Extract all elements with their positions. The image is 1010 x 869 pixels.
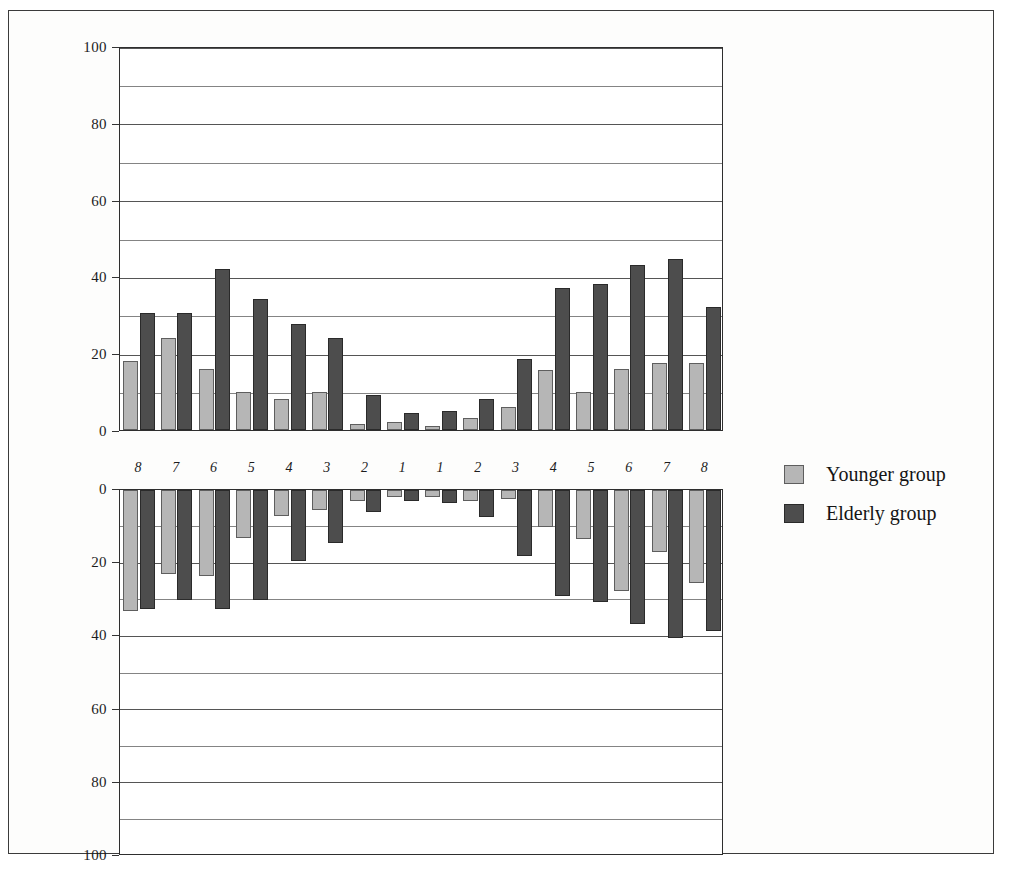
legend-label-elderly: Elderly group (826, 502, 937, 525)
x-axis-category-labels: 8765432112345678 (119, 459, 723, 481)
bar-elderly-2 (366, 395, 381, 430)
bar-elderly-5 (593, 490, 608, 602)
bar-elderly-7 (668, 490, 683, 638)
bar-elderly-3 (328, 338, 343, 430)
x-axis-label-0: 8 (119, 461, 157, 475)
bar-elderly-8 (706, 307, 721, 430)
elderly-group-swatch-icon (784, 504, 804, 523)
bar-elderly-5 (593, 284, 608, 430)
bar-elderly-6 (630, 265, 645, 430)
bar-younger-8 (689, 363, 704, 430)
legend-item-elderly: Elderly group (784, 502, 984, 525)
bar-younger-3 (501, 407, 516, 430)
bar-elderly-6 (215, 490, 230, 609)
bar-younger-4 (538, 370, 553, 430)
lower-ytick-label: 40 (51, 628, 107, 643)
bar-younger-7 (652, 363, 667, 430)
y-axis-tick (112, 124, 119, 125)
bar-elderly-5 (253, 490, 268, 600)
lower-ytick-label: 20 (51, 555, 107, 570)
bar-younger-2 (463, 418, 478, 430)
bar-younger-6 (614, 369, 629, 430)
bar-younger-4 (538, 490, 553, 527)
bar-elderly-4 (555, 288, 570, 430)
y-axis-tick (112, 635, 119, 636)
bar-younger-4 (274, 490, 289, 516)
bar-elderly-3 (517, 490, 532, 556)
bar-younger-5 (236, 392, 251, 430)
bar-elderly-1 (404, 413, 419, 430)
lower-ytick-label: 0 (51, 482, 107, 497)
bar-elderly-4 (291, 490, 306, 561)
bar-younger-8 (123, 490, 138, 611)
bar-elderly-4 (291, 324, 306, 430)
gridline (120, 201, 722, 202)
x-axis-label-3: 5 (232, 461, 270, 475)
y-axis-tick (112, 201, 119, 202)
bar-elderly-8 (140, 490, 155, 609)
bar-younger-8 (689, 490, 704, 583)
x-axis-label-15: 8 (685, 461, 723, 475)
gridline (120, 819, 722, 820)
upper-ytick-label: 0 (51, 424, 107, 439)
bar-elderly-2 (479, 399, 494, 430)
bar-younger-8 (123, 361, 138, 430)
lower-ytick-label: 100 (51, 848, 107, 863)
bar-elderly-3 (328, 490, 343, 543)
bar-elderly-3 (517, 359, 532, 430)
x-axis-label-10: 3 (497, 461, 535, 475)
bar-elderly-1 (442, 490, 457, 503)
upper-ytick-label: 40 (51, 270, 107, 285)
bar-elderly-5 (253, 299, 268, 430)
bar-younger-5 (576, 490, 591, 539)
bar-younger-7 (652, 490, 667, 552)
bar-elderly-8 (140, 313, 155, 430)
y-axis-tick (112, 709, 119, 710)
bar-younger-1 (387, 422, 402, 430)
younger-group-swatch-icon (784, 465, 804, 484)
x-axis-label-11: 4 (534, 461, 572, 475)
x-axis-label-14: 7 (648, 461, 686, 475)
upper-ytick-label: 20 (51, 347, 107, 362)
y-axis-tick (112, 277, 119, 278)
gridline (120, 48, 722, 49)
gridline (120, 782, 722, 783)
gridline (120, 240, 722, 241)
x-axis-label-6: 2 (346, 461, 384, 475)
gridline (120, 636, 722, 637)
y-axis-tick (112, 489, 119, 490)
bar-younger-5 (236, 490, 251, 538)
gridline (120, 124, 722, 125)
bar-elderly-4 (555, 490, 570, 596)
gridline (120, 746, 722, 747)
x-axis-label-1: 7 (157, 461, 195, 475)
bar-elderly-2 (479, 490, 494, 517)
y-axis-tick (112, 354, 119, 355)
bar-younger-2 (350, 490, 365, 501)
y-axis-tick (112, 562, 119, 563)
bar-younger-3 (312, 392, 327, 430)
bar-elderly-1 (442, 411, 457, 430)
x-axis-label-5: 3 (308, 461, 346, 475)
x-axis-label-7: 1 (383, 461, 421, 475)
lower-panel-plot-area (119, 489, 723, 855)
upper-ytick-label: 80 (51, 117, 107, 132)
bar-elderly-7 (177, 490, 192, 600)
upper-panel-plot-area (119, 47, 723, 431)
bar-younger-3 (312, 490, 327, 510)
legend-label-younger: Younger group (826, 463, 946, 486)
x-axis-label-8: 1 (421, 461, 459, 475)
bar-elderly-7 (668, 259, 683, 430)
bar-elderly-8 (706, 490, 721, 631)
x-axis-label-2: 6 (195, 461, 233, 475)
y-axis-tick (112, 782, 119, 783)
bar-younger-5 (576, 392, 591, 430)
x-axis-label-13: 6 (610, 461, 648, 475)
y-axis-tick (112, 855, 119, 856)
bar-elderly-6 (630, 490, 645, 624)
y-axis-tick (112, 47, 119, 48)
bar-younger-1 (387, 490, 402, 497)
gridline (120, 86, 722, 87)
upper-ytick-label: 60 (51, 194, 107, 209)
bar-younger-1 (425, 426, 440, 430)
